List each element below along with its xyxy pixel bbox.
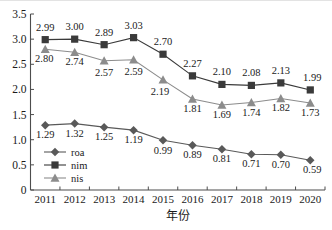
data-label-nim: 2.99: [36, 22, 54, 33]
marker-square: [248, 82, 255, 89]
data-label-nis: 1.69: [213, 109, 231, 120]
x-tick-label: 2019: [270, 193, 293, 205]
marker-square: [130, 34, 137, 41]
data-label-nim: 2.89: [95, 27, 113, 38]
data-label-nim: 2.08: [242, 67, 260, 78]
data-label-nis: 1.74: [242, 107, 261, 118]
data-label-nim: 1.99: [303, 72, 321, 83]
data-label-roa: 0.59: [303, 164, 321, 175]
y-tick-label: 1.0: [12, 134, 27, 146]
data-label-nim: 3.00: [65, 21, 83, 32]
series-line-nim: [45, 38, 310, 90]
data-label-roa: 0.71: [242, 158, 260, 169]
marker-square: [189, 72, 196, 79]
y-tick-label: 2.5: [12, 58, 27, 70]
y-tick-label: 0.5: [12, 159, 27, 171]
marker-diamond: [277, 151, 285, 159]
y-tick-label: 0: [21, 184, 27, 196]
data-label-nim: 3.03: [124, 20, 142, 31]
data-label-roa: 1.29: [36, 129, 54, 140]
marker-triangle: [41, 45, 50, 53]
legend-label-nis: nis: [71, 173, 83, 184]
data-label-nim: 2.10: [213, 66, 231, 77]
line-chart: 00.51.01.52.02.53.03.5201120122013201420…: [0, 0, 332, 230]
marker-diamond: [51, 148, 59, 156]
data-label-nis: 1.82: [272, 102, 290, 113]
data-label-nim: 2.70: [154, 36, 172, 47]
marker-diamond: [159, 136, 167, 144]
marker-triangle: [159, 75, 168, 83]
x-tick-label: 2012: [64, 193, 86, 205]
marker-square: [42, 36, 49, 43]
x-tick-label: 2011: [34, 193, 56, 205]
series-line-nis: [45, 49, 310, 105]
marker-square: [277, 79, 284, 86]
data-label-nim: 2.27: [183, 58, 201, 69]
marker-diamond: [129, 126, 137, 134]
marker-triangle: [188, 94, 197, 102]
data-label-roa: 0.99: [154, 145, 172, 156]
data-label-nim: 2.13: [272, 65, 290, 76]
marker-diamond: [100, 123, 108, 131]
x-tick-label: 2020: [299, 193, 322, 205]
marker-triangle: [276, 94, 285, 102]
marker-square: [101, 41, 108, 48]
marker-square: [51, 161, 58, 168]
data-label-nis: 2.59: [124, 66, 142, 77]
marker-diamond: [218, 145, 226, 153]
data-label-roa: 1.25: [95, 131, 113, 142]
marker-diamond: [247, 150, 255, 158]
marker-diamond: [306, 156, 314, 164]
x-axis-title: 年份: [166, 209, 190, 223]
data-label-nis: 2.74: [65, 56, 84, 67]
y-tick-label: 2.0: [12, 83, 27, 95]
series-line-roa: [45, 124, 310, 161]
legend-label-roa: roa: [71, 147, 85, 158]
x-tick-label: 2018: [240, 193, 263, 205]
marker-diamond: [70, 119, 78, 127]
data-label-roa: 1.19: [124, 134, 142, 145]
marker-square: [159, 51, 166, 58]
x-tick-label: 2016: [181, 193, 204, 205]
data-label-roa: 0.81: [213, 153, 231, 164]
data-label-roa: 0.70: [272, 159, 290, 170]
marker-square: [307, 86, 314, 93]
data-label-nis: 2.57: [95, 67, 113, 78]
legend-label-nim: nim: [71, 160, 87, 171]
x-tick-label: 2013: [93, 193, 116, 205]
data-label-nis: 2.80: [35, 53, 53, 64]
x-tick-label: 2014: [123, 193, 146, 205]
x-tick-label: 2017: [211, 193, 234, 205]
data-label-roa: 0.89: [183, 149, 201, 160]
y-tick-label: 1.5: [12, 109, 27, 121]
data-label-roa: 1.32: [65, 128, 83, 139]
marker-square: [71, 36, 78, 43]
x-tick-label: 2015: [152, 193, 175, 205]
y-tick-label: 3.5: [12, 8, 27, 20]
marker-diamond: [41, 121, 49, 129]
data-label-nis: 1.81: [183, 103, 201, 114]
data-label-nis: 2.19: [151, 86, 169, 97]
y-tick-label: 3.0: [12, 33, 27, 45]
marker-diamond: [188, 141, 196, 149]
marker-square: [218, 81, 225, 88]
chart-canvas: 00.51.01.52.02.53.03.5201120122013201420…: [0, 0, 332, 230]
data-label-nis: 1.73: [301, 107, 319, 118]
